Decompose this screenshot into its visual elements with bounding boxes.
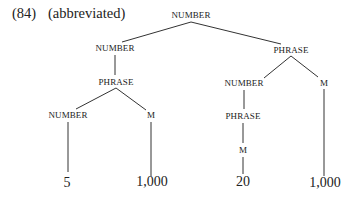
tree-node: NUMBER [48, 110, 87, 120]
tree-edges [0, 0, 349, 202]
tree-edge [116, 88, 146, 110]
tree-node: PHRASE [225, 111, 260, 121]
tree-edge [264, 56, 291, 78]
tree-node: PHRASE [98, 77, 133, 87]
tree-node: M [239, 145, 247, 155]
tree-leaf: 20 [236, 174, 250, 190]
tree-leaf: 1,000 [136, 174, 168, 190]
tree-node: PHRASE [273, 45, 308, 55]
tree-edge [122, 22, 191, 42]
tree-node: NUMBER [95, 43, 134, 53]
tree-edge [76, 88, 116, 109]
example-number: (84) [12, 5, 36, 22]
example-note: (abbreviated) [48, 5, 125, 22]
tree-node: NUMBER [171, 10, 210, 20]
tree-node: M [320, 78, 328, 88]
tree-leaf: 5 [64, 175, 71, 191]
tree-edge [291, 56, 318, 77]
tree-leaf: 1,000 [309, 175, 341, 191]
tree-node: NUMBER [224, 78, 263, 88]
tree-edge [191, 22, 281, 44]
tree-node: M [147, 110, 155, 120]
